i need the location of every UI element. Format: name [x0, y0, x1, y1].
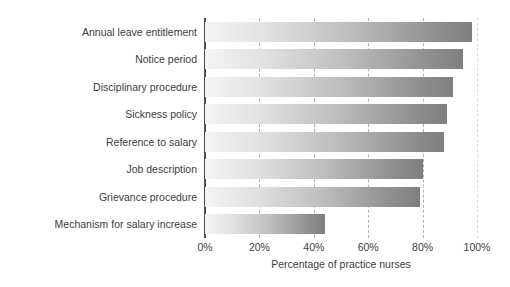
bar	[205, 187, 420, 207]
bar-fill	[205, 159, 423, 179]
gridline-100	[477, 18, 478, 238]
x-axis-tick-labels: 0%20%40%60%80%100%	[205, 241, 477, 257]
bar-fill	[205, 214, 325, 234]
x-axis-title: Percentage of practice nurses	[205, 258, 477, 270]
bar-fill	[205, 22, 472, 42]
x-tick-label: 80%	[412, 241, 433, 253]
bar	[205, 22, 472, 42]
x-tick-label: 60%	[358, 241, 379, 253]
category-label: Job description	[0, 159, 197, 179]
bar	[205, 214, 325, 234]
bar	[205, 159, 423, 179]
x-tick-label: 100%	[464, 241, 491, 253]
bar-fill	[205, 187, 420, 207]
bar	[205, 77, 453, 97]
bar-fill	[205, 49, 463, 69]
category-label: Annual leave entitlement	[0, 22, 197, 42]
bar-fill	[205, 104, 447, 124]
x-tick-label: 40%	[303, 241, 324, 253]
category-label: Reference to salary	[0, 132, 197, 152]
category-label: Sickness policy	[0, 104, 197, 124]
category-axis-labels: Annual leave entitlementNotice periodDis…	[0, 18, 197, 238]
x-tick-label: 0%	[197, 241, 212, 253]
bar-chart: Annual leave entitlementNotice periodDis…	[0, 0, 510, 287]
category-label: Disciplinary procedure	[0, 77, 197, 97]
bar	[205, 49, 463, 69]
bar-fill	[205, 77, 453, 97]
bar	[205, 104, 447, 124]
bar-fill	[205, 132, 444, 152]
x-tick-label: 20%	[249, 241, 270, 253]
category-label: Grievance procedure	[0, 187, 197, 207]
category-label: Mechanism for salary increase	[0, 214, 197, 234]
bar	[205, 132, 444, 152]
plot-area	[205, 18, 477, 238]
category-label: Notice period	[0, 49, 197, 69]
